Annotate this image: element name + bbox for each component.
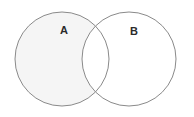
venn-diagram-figure: A B	[0, 0, 194, 117]
set-a-label: A	[60, 24, 68, 36]
venn-diagram-canvas: A B	[0, 0, 194, 117]
set-b-label: B	[130, 25, 138, 37]
